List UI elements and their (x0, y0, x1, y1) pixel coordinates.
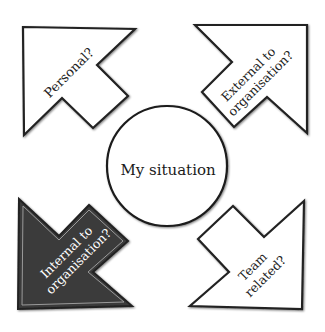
center-circle: My situation (107, 106, 227, 226)
arrow-team: Team related? (190, 201, 304, 309)
arrow-personal: Personal? (23, 27, 135, 135)
arrow-internal: Internal to organisation? (18, 199, 132, 309)
arrow-external: External to organisation? (195, 25, 307, 133)
situation-diagram: Personal? External to organisation? Inte… (0, 0, 325, 332)
center-label: My situation (120, 161, 216, 179)
